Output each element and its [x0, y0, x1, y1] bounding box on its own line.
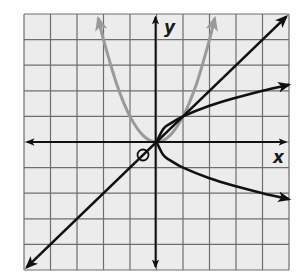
y-axis-label: y — [164, 17, 176, 37]
coordinate-graph: y x — [0, 0, 305, 276]
x-axis-label: x — [272, 147, 285, 167]
